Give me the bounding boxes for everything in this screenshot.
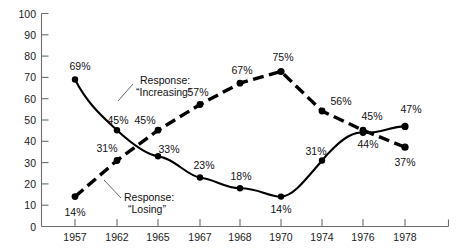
value-label-losing-1965: 33% bbox=[158, 143, 179, 155]
value-label-losing-1967: 23% bbox=[193, 159, 214, 171]
annotation-increasing-line1: Response: bbox=[140, 74, 190, 86]
value-label-losing-1976: 44% bbox=[357, 138, 378, 150]
x-tick-label-1978: 1978 bbox=[393, 231, 417, 243]
y-tick-label-100: 100 bbox=[18, 8, 36, 20]
annotation-increasing-leader bbox=[118, 84, 133, 101]
value-label-losing-1970: 14% bbox=[270, 203, 291, 215]
increasing-point-1970 bbox=[277, 68, 284, 75]
annotation-losing-leader bbox=[104, 180, 121, 198]
x-tick-label-1965: 1965 bbox=[146, 231, 170, 243]
value-label-increasing-1965: 45% bbox=[134, 114, 155, 126]
y-tick-label-20: 20 bbox=[24, 178, 36, 190]
increasing-point-1967 bbox=[197, 101, 204, 108]
value-label-increasing-1978: 37% bbox=[394, 156, 415, 168]
y-tick-label-90: 90 bbox=[24, 29, 36, 41]
x-tick-label-1974: 1974 bbox=[310, 231, 334, 243]
losing-point-1970 bbox=[278, 193, 284, 199]
y-tick-label-70: 70 bbox=[24, 71, 36, 83]
y-tick-label-0: 0 bbox=[30, 221, 36, 233]
value-label-increasing-1957: 14% bbox=[64, 206, 85, 218]
value-label-losing-1978: 47% bbox=[400, 103, 421, 115]
increasing-point-1957 bbox=[72, 193, 79, 200]
increasing-point-1962 bbox=[114, 157, 121, 164]
increasing-point-1976 bbox=[360, 127, 367, 134]
x-tick-label-1967: 1967 bbox=[188, 231, 212, 243]
losing-point-1962 bbox=[114, 127, 120, 133]
x-tick-label-1957: 1957 bbox=[63, 231, 87, 243]
y-axis: 100 90 80 70 60 50 40 30 20 10 0 bbox=[18, 8, 48, 233]
losing-point-1967 bbox=[197, 174, 203, 180]
value-label-increasing-1974: 56% bbox=[330, 95, 351, 107]
x-axis: 1957 1962 1965 1967 1968 1970 1974 1976 … bbox=[42, 219, 449, 243]
chart-canvas: 100 90 80 70 60 50 40 30 20 10 0 1957 bbox=[0, 0, 460, 251]
increasing-point-1978 bbox=[401, 144, 408, 151]
x-tick-label-1962: 1962 bbox=[105, 231, 129, 243]
y-tick-label-10: 10 bbox=[24, 199, 36, 211]
annotation-increasing-line2: “Increasing” bbox=[136, 86, 192, 98]
annotation-increasing: Response: “Increasing” bbox=[118, 74, 192, 101]
increasing-point-1968 bbox=[237, 80, 244, 87]
y-tick-label-30: 30 bbox=[24, 157, 36, 169]
increasing-point-1974 bbox=[319, 108, 326, 115]
increasing-point-1965 bbox=[155, 127, 162, 134]
annotation-losing-line1: Response: bbox=[124, 191, 174, 203]
line-chart: 100 90 80 70 60 50 40 30 20 10 0 1957 bbox=[0, 0, 460, 251]
x-tick-label-1976: 1976 bbox=[351, 231, 375, 243]
losing-point-1968 bbox=[237, 185, 243, 191]
value-label-losing-1957: 69% bbox=[69, 60, 90, 72]
value-label-losing-1962: 45% bbox=[107, 114, 128, 126]
losing-point-1957 bbox=[72, 76, 78, 82]
y-tick-label-40: 40 bbox=[24, 135, 36, 147]
x-tick-label-1970: 1970 bbox=[269, 231, 293, 243]
y-tick-label-60: 60 bbox=[24, 93, 36, 105]
x-tick-label-1968: 1968 bbox=[228, 231, 252, 243]
value-label-increasing-1962: 31% bbox=[96, 142, 117, 154]
value-label-losing-1968: 18% bbox=[230, 170, 251, 182]
losing-point-1978 bbox=[401, 123, 408, 130]
value-label-increasing-1976: 45% bbox=[361, 110, 382, 122]
y-tick-label-80: 80 bbox=[24, 50, 36, 62]
y-tick-label-50: 50 bbox=[24, 114, 36, 126]
value-label-increasing-1968: 67% bbox=[231, 64, 252, 76]
losing-point-1974 bbox=[319, 157, 325, 163]
value-label-losing-1974: 31% bbox=[305, 145, 326, 157]
value-label-increasing-1970: 75% bbox=[272, 51, 293, 63]
annotation-losing-line2: “Losing” bbox=[128, 203, 166, 215]
annotation-losing: Response: “Losing” bbox=[104, 180, 174, 215]
